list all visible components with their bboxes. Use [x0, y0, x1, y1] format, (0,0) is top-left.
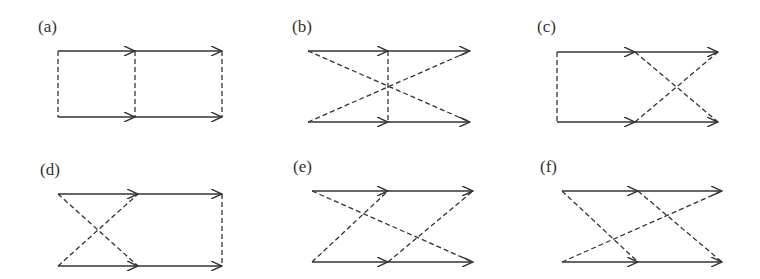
- dashed-edge: [312, 191, 473, 262]
- panel-a: (a): [38, 17, 222, 117]
- panel-label: (e): [293, 157, 312, 176]
- panel-f: (f): [540, 157, 722, 262]
- panel-e: (e): [293, 157, 473, 262]
- panel-label: (d): [40, 160, 60, 179]
- dashed-edge: [638, 191, 722, 262]
- dashed-edge: [312, 191, 388, 262]
- dashed-edge: [562, 191, 722, 262]
- panel-label: (c): [537, 17, 556, 36]
- panels-group: (a)(b)(c)(d)(e)(f): [38, 17, 722, 266]
- dashed-edge: [388, 191, 473, 262]
- panel-b: (b): [292, 17, 470, 122]
- panel-label: (b): [292, 17, 312, 36]
- panel-d: (d): [40, 160, 222, 266]
- diagram-canvas: (a)(b)(c)(d)(e)(f): [0, 0, 760, 279]
- dashed-edge: [562, 191, 638, 262]
- panel-label: (a): [38, 17, 57, 36]
- panel-c: (c): [537, 17, 718, 122]
- panel-label: (f): [540, 157, 557, 176]
